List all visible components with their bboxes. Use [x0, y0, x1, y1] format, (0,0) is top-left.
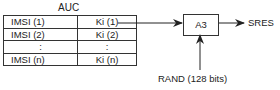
- a3-algorithm-box: A3: [183, 14, 219, 36]
- sres-label: SRES: [248, 17, 274, 28]
- connector-arrows: [0, 0, 280, 90]
- rand-label: RAND (128 bits): [158, 73, 227, 84]
